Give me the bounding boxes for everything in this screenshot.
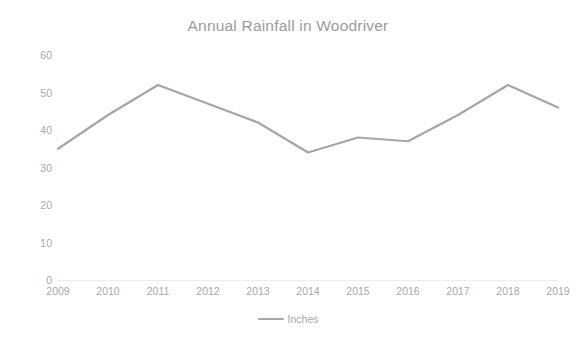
- x-tick-label: 2017: [446, 285, 469, 297]
- x-tick-label: 2009: [46, 285, 69, 297]
- legend-label-inches: Inches: [288, 313, 319, 325]
- legend-line-swatch-inches: [258, 318, 284, 321]
- chart-title: Annual Rainfall in Woodriver: [0, 17, 576, 35]
- y-tick-label: 50: [0, 87, 52, 99]
- x-axis-line: [58, 280, 558, 281]
- x-tick-label: 2013: [246, 285, 269, 297]
- line-series-inches: [58, 85, 558, 153]
- x-tick-label: 2011: [147, 285, 170, 297]
- y-tick-label: 60: [0, 49, 52, 61]
- chart-legend: Inches: [0, 313, 576, 325]
- x-tick-label: 2018: [496, 285, 519, 297]
- y-tick-label: 10: [0, 237, 52, 249]
- y-tick-label: 40: [0, 124, 52, 136]
- y-tick-label: 20: [0, 199, 52, 211]
- x-tick-label: 2014: [296, 285, 319, 297]
- x-axis: 2009201020112012201320142015201620172018…: [58, 285, 558, 301]
- x-tick-label: 2019: [546, 285, 569, 297]
- x-tick-label: 2016: [396, 285, 419, 297]
- x-tick-label: 2015: [346, 285, 369, 297]
- line-series-svg: [58, 55, 558, 280]
- x-tick-label: 2012: [196, 285, 219, 297]
- y-tick-label: 30: [0, 162, 52, 174]
- chart-container: Annual Rainfall in Woodriver 01020304050…: [0, 0, 576, 347]
- plot-area: [58, 55, 558, 280]
- y-tick-label: 0: [0, 274, 52, 286]
- x-tick-label: 2010: [96, 285, 119, 297]
- y-axis: 0102030405060: [0, 55, 52, 280]
